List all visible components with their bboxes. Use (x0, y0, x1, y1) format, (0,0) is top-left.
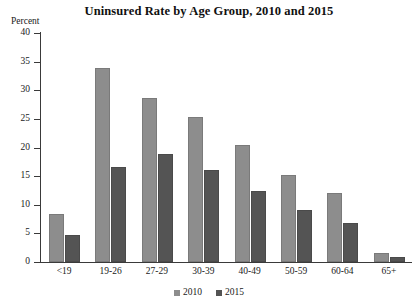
y-axis-tick (34, 233, 40, 234)
y-axis-title: Percent (11, 16, 40, 26)
bar-2015 (158, 154, 173, 262)
chart-legend: 20102015 (0, 288, 418, 298)
legend-item-2010[interactable]: 2010 (174, 288, 202, 298)
legend-item-2015[interactable]: 2015 (216, 288, 244, 298)
y-axis-tick-label: 10 (8, 200, 30, 210)
bar-2010 (95, 68, 110, 262)
bar-2010 (235, 145, 250, 262)
x-axis-line (40, 262, 412, 263)
bar-2015 (111, 167, 126, 262)
plot-area (41, 33, 412, 262)
bar-2015 (343, 223, 358, 262)
bar-group (227, 33, 273, 262)
bar-group (87, 33, 133, 262)
y-axis-tick-label: 20 (8, 143, 30, 153)
chart-figure: Uninsured Rate by Age Group, 2010 and 20… (0, 0, 418, 306)
y-axis-tick (34, 262, 40, 263)
y-axis-tick-label: 15 (8, 171, 30, 181)
y-axis-tick-label: 0 (8, 257, 30, 267)
y-axis-tick-label: 35 (8, 57, 30, 67)
bar-2015 (390, 257, 405, 262)
bar-2015 (297, 210, 312, 262)
y-axis-tick (34, 148, 40, 149)
bar-group (273, 33, 319, 262)
bar-group (319, 33, 365, 262)
legend-swatch-icon (216, 290, 222, 296)
bar-2015 (204, 170, 219, 262)
y-axis-tick (34, 176, 40, 177)
y-axis-tick (34, 33, 40, 34)
y-axis-tick-label: 30 (8, 85, 30, 95)
bar-group (41, 33, 87, 262)
y-axis-tick-label: 25 (8, 114, 30, 124)
y-axis-tick (34, 90, 40, 91)
y-axis-tick-label: 40 (8, 28, 30, 38)
y-axis-tick (34, 119, 40, 120)
bar-2015 (251, 191, 266, 262)
bar-group (180, 33, 226, 262)
bar-2010 (188, 117, 203, 262)
bar-2015 (65, 235, 80, 262)
bar-2010 (374, 253, 389, 262)
legend-label: 2010 (183, 288, 202, 298)
bar-2010 (142, 98, 157, 262)
x-axis-tick-label: 65+ (359, 267, 418, 277)
chart-title: Uninsured Rate by Age Group, 2010 and 20… (0, 4, 418, 19)
legend-label: 2015 (225, 288, 244, 298)
bar-group (366, 33, 412, 262)
bar-2010 (49, 214, 64, 262)
legend-swatch-icon (174, 290, 180, 296)
y-axis-tick (34, 205, 40, 206)
y-axis-tick (34, 62, 40, 63)
bar-2010 (281, 175, 296, 262)
bar-2010 (327, 193, 342, 262)
bar-group (134, 33, 180, 262)
y-axis-tick-label: 5 (8, 228, 30, 238)
